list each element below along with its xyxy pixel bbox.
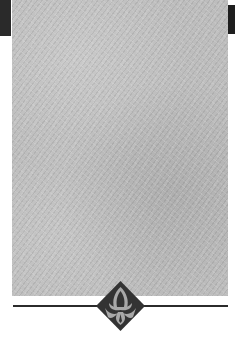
- marble-texture-panel: [12, 0, 228, 296]
- diamond-floral-ornament-icon: [96, 281, 145, 331]
- scan-edge-right: [227, 5, 235, 34]
- scan-edge-left: [0, 0, 11, 36]
